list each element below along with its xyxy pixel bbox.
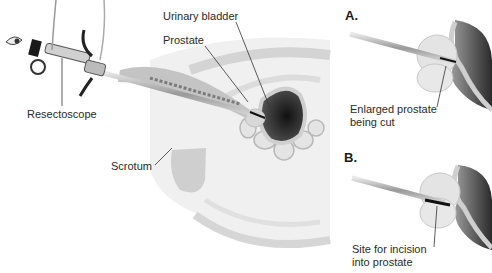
pelvic-anatomy	[150, 38, 330, 245]
label-scrotum: Scrotum	[111, 160, 152, 173]
label-prostate: Prostate	[163, 34, 204, 47]
panel-b-caption-line2: into prostate	[352, 256, 413, 269]
label-urinary-bladder: Urinary bladder	[163, 10, 238, 23]
panel-b-caption-line1: Site for incision	[352, 243, 427, 256]
panel-b-illustration	[352, 165, 492, 250]
label-resectoscope: Resectoscope	[27, 108, 97, 121]
panel-b-letter: B.	[344, 150, 357, 165]
urinary-bladder-shape	[260, 89, 305, 143]
panel-a-caption-line2: being cut	[350, 116, 395, 129]
diagram-illustration	[0, 0, 492, 273]
panel-a-illustration	[350, 20, 492, 110]
panel-a-caption-line1: Enlarged prostate	[350, 103, 437, 116]
panel-a-letter: A.	[345, 8, 358, 23]
